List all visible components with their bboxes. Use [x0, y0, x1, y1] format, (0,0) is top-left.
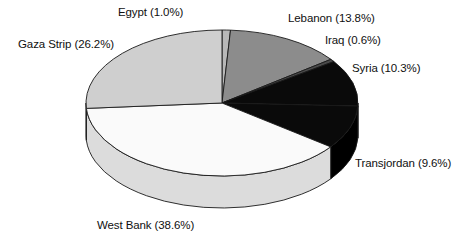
pie-top-faces: [86, 30, 358, 176]
slice-label-transjordan: Transjordan (9.6%): [355, 157, 451, 170]
slice-label-egypt: Egypt (1.0%): [118, 6, 183, 19]
slice-label-syria: Syria (10.3%): [352, 62, 420, 75]
slice-label-iraq: Iraq (0.6%): [325, 34, 381, 47]
slice-label-west-bank: West Bank (38.6%): [97, 219, 194, 232]
pie-chart: Egypt (1.0%) Lebanon (13.8%) Iraq (0.6%)…: [0, 0, 470, 249]
slice-label-lebanon: Lebanon (13.8%): [288, 12, 375, 25]
slice-label-gaza-strip: Gaza Strip (26.2%): [18, 38, 114, 51]
